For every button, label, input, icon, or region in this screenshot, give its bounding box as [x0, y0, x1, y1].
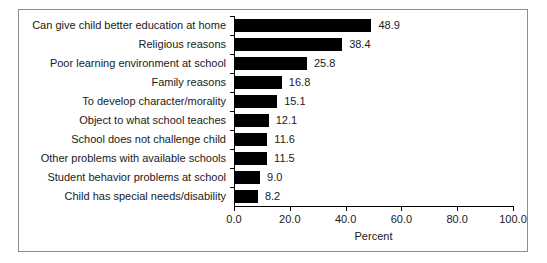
category-label: Student behavior problems at school [47, 168, 226, 187]
bar [235, 190, 258, 203]
y-axis-tick [230, 187, 234, 188]
x-axis-tick-label: 60.0 [391, 213, 412, 225]
y-axis-tick [230, 35, 234, 36]
bar-value-label: 48.9 [378, 16, 399, 35]
category-label: Can give child better education at home [32, 16, 226, 35]
bar [235, 114, 269, 127]
x-axis-tick-label: 0.0 [226, 213, 241, 225]
x-axis-tick [401, 206, 402, 211]
x-axis-tick [234, 206, 235, 211]
bar-value-label: 12.1 [276, 111, 297, 130]
bar [235, 171, 260, 184]
bar-value-label: 11.5 [274, 149, 295, 168]
y-axis-tick [230, 111, 234, 112]
bar [235, 95, 277, 108]
bar [235, 38, 342, 51]
bar [235, 133, 267, 146]
bar-row: Religious reasons38.4 [234, 35, 513, 54]
category-label: School does not challenge child [71, 130, 226, 149]
x-axis-tick [457, 206, 458, 211]
bar-row: Family reasons16.8 [234, 73, 513, 92]
y-axis-tick [230, 54, 234, 55]
bar-row: Other problems with available schools11.… [234, 149, 513, 168]
y-axis-tick [230, 73, 234, 74]
bar [235, 76, 282, 89]
x-axis-tick [346, 206, 347, 211]
category-label: Religious reasons [139, 35, 226, 54]
x-axis-tick-label: 80.0 [446, 213, 467, 225]
bar-row: Object to what school teaches12.1 [234, 111, 513, 130]
bar-row: School does not challenge child11.6 [234, 130, 513, 149]
bar-value-label: 38.4 [349, 35, 370, 54]
x-axis-line [234, 206, 513, 207]
bar-row: To develop character/morality15.1 [234, 92, 513, 111]
y-axis-tick [230, 92, 234, 93]
category-label: To develop character/morality [82, 92, 226, 111]
category-label: Family reasons [151, 73, 226, 92]
y-axis-tick [230, 168, 234, 169]
bar-value-label: 16.8 [289, 73, 310, 92]
bar-row: Poor learning environment at school25.8 [234, 54, 513, 73]
x-axis-tick-label: 20.0 [279, 213, 300, 225]
bar-row: Student behavior problems at school9.0 [234, 168, 513, 187]
bar [235, 152, 267, 165]
bar-row: Can give child better education at home4… [234, 16, 513, 35]
bar-value-label: 9.0 [267, 168, 282, 187]
x-axis-tick-label: 100.0 [499, 213, 527, 225]
y-axis-tick [230, 16, 234, 17]
x-axis-tick [290, 206, 291, 211]
y-axis-tick [230, 149, 234, 150]
plot-area: Can give child better education at home4… [234, 16, 513, 206]
y-axis-tick [230, 130, 234, 131]
bar-value-label: 8.2 [265, 187, 280, 206]
bar-value-label: 11.6 [274, 130, 295, 149]
category-label: Other problems with available schools [41, 149, 226, 168]
category-label: Child has special needs/disability [65, 187, 226, 206]
bar [235, 57, 307, 70]
bar-value-label: 15.1 [284, 92, 305, 111]
bar-value-label: 25.8 [314, 54, 335, 73]
x-axis-tick-label: 40.0 [335, 213, 356, 225]
bar-row: Child has special needs/disability8.2 [234, 187, 513, 206]
category-label: Poor learning environment at school [50, 54, 226, 73]
bar [235, 19, 371, 32]
x-axis-tick [513, 206, 514, 211]
category-label: Object to what school teaches [79, 111, 226, 130]
x-axis-title: Percent [234, 230, 513, 242]
chart-frame: Can give child better education at home4… [18, 9, 528, 252]
